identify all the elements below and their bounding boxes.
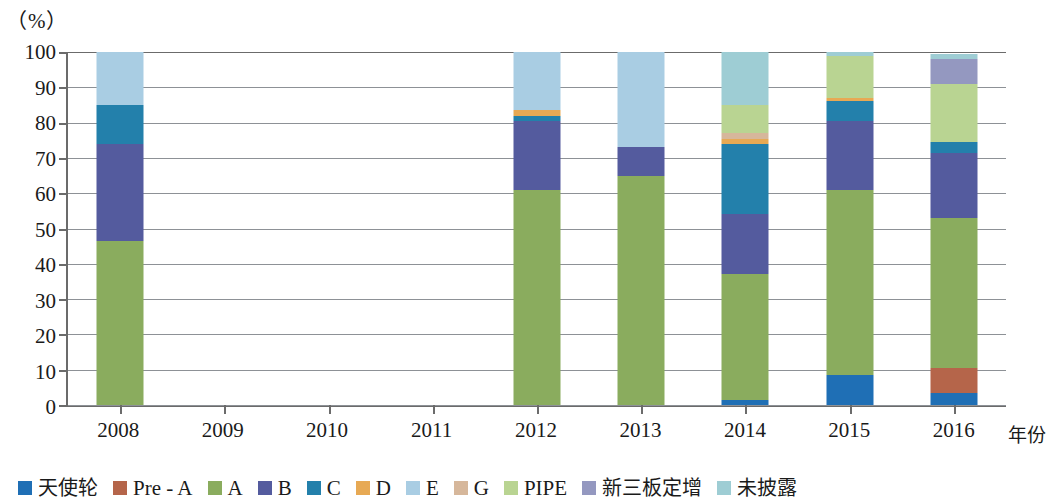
- x-axis-tick-mark: [120, 405, 122, 414]
- stacked-bar[interactable]: [618, 52, 665, 405]
- bar-segment[interactable]: [722, 214, 769, 274]
- legend-label: 天使轮: [38, 478, 98, 498]
- legend-item[interactable]: A: [208, 478, 243, 499]
- bar-segment[interactable]: [97, 144, 144, 241]
- bar-segment[interactable]: [826, 98, 873, 102]
- x-axis-tick-label: 2011: [411, 418, 452, 443]
- y-axis-tick-mark: [59, 193, 68, 195]
- legend-label: E: [426, 478, 439, 499]
- bar-segment[interactable]: [513, 116, 560, 121]
- legend-item[interactable]: 天使轮: [18, 478, 98, 498]
- legend-swatch-icon: [113, 481, 127, 495]
- x-axis-tick-label: 2008: [97, 418, 139, 443]
- bar-segment[interactable]: [826, 121, 873, 190]
- bar-segment[interactable]: [722, 52, 769, 105]
- legend-item[interactable]: 未披露: [717, 478, 797, 498]
- y-axis-tick-label: 40: [4, 255, 56, 276]
- bar-segment[interactable]: [618, 176, 665, 405]
- x-axis-tick-label: 2016: [933, 418, 975, 443]
- bar-segment[interactable]: [930, 368, 977, 393]
- bar-segment[interactable]: [930, 153, 977, 218]
- legend-swatch-icon: [582, 481, 596, 495]
- stacked-bar[interactable]: [305, 52, 352, 405]
- legend-item[interactable]: C: [307, 478, 341, 499]
- stacked-bar[interactable]: [409, 52, 456, 405]
- bar-segment[interactable]: [618, 147, 665, 175]
- legend-swatch-icon: [208, 481, 222, 495]
- x-axis-tick-mark: [850, 405, 852, 414]
- bar-slot: [276, 52, 380, 405]
- legend-item[interactable]: B: [258, 478, 292, 499]
- plot-area: [66, 52, 1006, 407]
- legend-label: 新三板定增: [602, 478, 702, 498]
- y-axis-tick-label: 100: [4, 42, 56, 63]
- y-axis-tick-mark: [59, 229, 68, 231]
- x-axis-title: 年份: [1008, 420, 1046, 447]
- y-axis-unit-label: （%）: [6, 4, 69, 34]
- bar-segment[interactable]: [97, 241, 144, 405]
- legend-swatch-icon: [406, 481, 420, 495]
- bar-segment[interactable]: [930, 393, 977, 405]
- legend-label: Pre - A: [133, 478, 193, 499]
- bar-segment[interactable]: [97, 105, 144, 144]
- x-axis-tick-label: 2009: [202, 418, 244, 443]
- chart-legend: 天使轮Pre - AABCDEGPIPE新三板定增未披露: [18, 474, 1028, 502]
- x-axis-tick-mark: [537, 405, 539, 414]
- bar-segment[interactable]: [618, 52, 665, 147]
- bar-segment[interactable]: [826, 52, 873, 56]
- bar-slot: [902, 52, 1006, 405]
- bar-segment[interactable]: [826, 375, 873, 405]
- legend-swatch-icon: [504, 481, 518, 495]
- legend-item[interactable]: D: [356, 478, 391, 499]
- bar-segment[interactable]: [826, 190, 873, 375]
- bar-segment[interactable]: [513, 110, 560, 115]
- legend-item[interactable]: PIPE: [504, 478, 567, 499]
- legend-item[interactable]: E: [406, 478, 439, 499]
- y-axis-tick-label: 70: [4, 148, 56, 169]
- bar-segment[interactable]: [97, 52, 144, 105]
- bar-segment[interactable]: [513, 52, 560, 110]
- y-axis-tick-mark: [59, 334, 68, 336]
- bar-segment[interactable]: [930, 54, 977, 59]
- stacked-bar[interactable]: [722, 52, 769, 405]
- bars-layer: [68, 52, 1006, 405]
- y-axis-tick-label: 50: [4, 219, 56, 240]
- legend-swatch-icon: [18, 481, 32, 495]
- bar-segment[interactable]: [513, 190, 560, 405]
- bar-segment[interactable]: [722, 105, 769, 133]
- x-axis-tick-label: 2015: [828, 418, 870, 443]
- bar-slot: [589, 52, 693, 405]
- legend-label: PIPE: [524, 478, 567, 499]
- bar-segment[interactable]: [826, 101, 873, 120]
- stacked-bar[interactable]: [97, 52, 144, 405]
- x-axis-tick-label: 2010: [306, 418, 348, 443]
- y-axis-tick-mark: [59, 299, 68, 301]
- y-axis-tick-mark: [59, 123, 68, 125]
- bar-segment[interactable]: [930, 59, 977, 84]
- legend-item[interactable]: 新三板定增: [582, 478, 702, 498]
- legend-label: C: [327, 478, 341, 499]
- bar-segment[interactable]: [722, 144, 769, 215]
- bar-segment[interactable]: [722, 274, 769, 399]
- stacked-bar[interactable]: [826, 52, 873, 405]
- legend-item[interactable]: G: [454, 478, 489, 499]
- stacked-bar[interactable]: [201, 52, 248, 405]
- stacked-bar[interactable]: [930, 52, 977, 405]
- stacked-bar[interactable]: [513, 52, 560, 405]
- y-axis-tick-label: 60: [4, 184, 56, 205]
- bar-segment[interactable]: [930, 142, 977, 153]
- legend-item[interactable]: Pre - A: [113, 478, 193, 499]
- legend-label: 未披露: [737, 478, 797, 498]
- legend-swatch-icon: [307, 481, 321, 495]
- bar-segment[interactable]: [722, 133, 769, 138]
- y-axis-tick-label: 30: [4, 290, 56, 311]
- legend-label: B: [278, 478, 292, 499]
- x-axis-tick-mark: [433, 405, 435, 414]
- bar-segment[interactable]: [930, 218, 977, 368]
- bar-segment[interactable]: [826, 56, 873, 98]
- y-axis-tick-label: 90: [4, 77, 56, 98]
- bar-segment[interactable]: [930, 84, 977, 142]
- bar-segment[interactable]: [722, 139, 769, 144]
- y-axis-tick-label: 20: [4, 326, 56, 347]
- bar-segment[interactable]: [513, 121, 560, 190]
